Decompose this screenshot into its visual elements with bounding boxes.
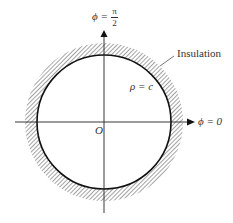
insulation-ring [0, 0, 233, 223]
right-axis-label: ϕ = 0 [198, 115, 222, 127]
top-axis-label: ϕ = [92, 10, 108, 22]
fraction-numerator: π [112, 7, 117, 16]
origin-label: O [95, 124, 103, 136]
fraction-denominator: 2 [112, 19, 117, 28]
insulation-label: Insulation [177, 47, 221, 59]
pi-over-2-fraction: π 2 [111, 7, 118, 28]
radius-label: ρ = c [130, 80, 153, 92]
diagram-canvas [0, 0, 233, 223]
